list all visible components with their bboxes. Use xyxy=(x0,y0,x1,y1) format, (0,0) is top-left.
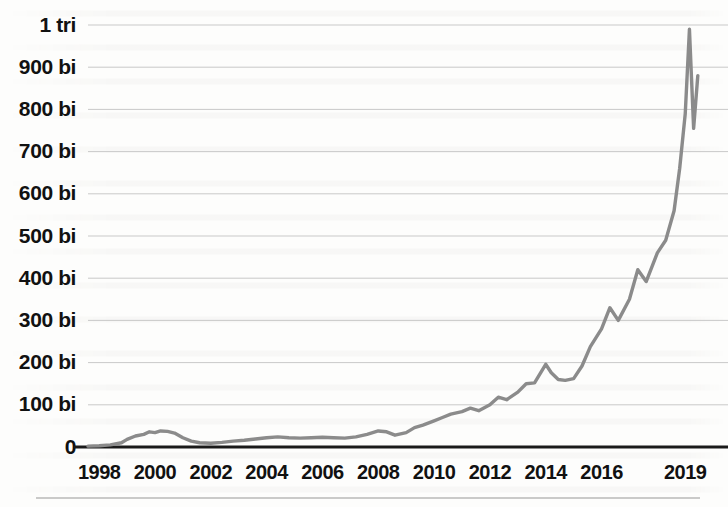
gridlines-group xyxy=(88,25,728,405)
chart-figure: 1 tri900 bi800 bi700 bi600 bi500 bi400 b… xyxy=(0,0,728,507)
x-axis-tick-label: 2014 xyxy=(524,461,568,483)
y-axis-tick-label: 700 bi xyxy=(19,139,76,162)
y-axis-tick-label: 600 bi xyxy=(19,181,76,204)
y-axis-tick-label: 200 bi xyxy=(19,350,76,373)
x-axis-tick-label: 2002 xyxy=(190,461,233,483)
x-axis-tick-label: 2012 xyxy=(469,461,512,483)
y-axis-tick-label: 500 bi xyxy=(19,224,76,247)
x-axis-tick-label: 2008 xyxy=(357,461,400,483)
y-axis-tick-label: 300 bi xyxy=(19,308,76,331)
y-axis-tick-label: 100 bi xyxy=(19,392,76,415)
y-axis-tick-labels: 1 tri900 bi800 bi700 bi600 bi500 bi400 b… xyxy=(19,13,76,458)
x-axis-tick-label: 2016 xyxy=(580,461,623,483)
data-series-line xyxy=(88,29,698,446)
y-axis-tick-label: 1 tri xyxy=(39,13,76,36)
line-chart: 1 tri900 bi800 bi700 bi600 bi500 bi400 b… xyxy=(0,0,728,507)
y-axis-tick-label: 800 bi xyxy=(19,97,76,120)
y-axis-tick-label: 900 bi xyxy=(19,55,76,78)
x-axis-tick-label: 1998 xyxy=(78,461,121,483)
x-axis-tick-label: 2019 xyxy=(664,461,707,483)
x-axis-tick-label: 2004 xyxy=(245,461,289,483)
x-axis-tick-label: 2006 xyxy=(301,461,344,483)
x-axis-tick-label: 2010 xyxy=(413,461,456,483)
y-axis-tick-label: 400 bi xyxy=(19,266,76,289)
x-axis-tick-labels: 1998200020022004200620082010201220142016… xyxy=(78,461,707,483)
x-axis-tick-label: 2000 xyxy=(134,461,177,483)
